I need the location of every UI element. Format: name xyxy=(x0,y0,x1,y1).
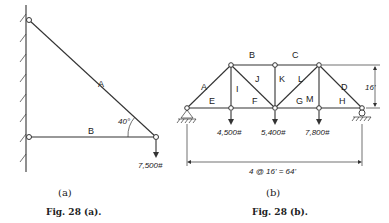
label-j: J xyxy=(255,74,260,84)
arrow-down-icon xyxy=(228,119,234,125)
svg-text:7,800#: 7,800# xyxy=(305,128,330,137)
load-label: 7,500# xyxy=(138,161,163,170)
load-2: 5,400# xyxy=(261,111,286,137)
load-arrowhead-icon xyxy=(153,152,159,158)
arrow-up-icon xyxy=(373,66,377,70)
label-l: L xyxy=(298,74,303,84)
label-g: G xyxy=(296,96,303,106)
figure-a: 40° A B 7,500# (a) Fig. 28 (a). xyxy=(20,5,163,217)
load-3: 7,800# xyxy=(305,111,330,137)
member-a xyxy=(29,20,156,137)
truss-diagram: 40° A B 7,500# (a) Fig. 28 (a). xyxy=(0,0,389,223)
pin-load xyxy=(154,135,159,140)
label-h: H xyxy=(339,96,346,106)
caption-b: Fig. 28 (b). xyxy=(252,207,308,217)
pin-bottom xyxy=(27,135,32,140)
arrow-down-icon xyxy=(272,119,278,125)
arrow-left-icon xyxy=(187,160,191,164)
subcaption-b: (b) xyxy=(266,187,280,198)
height-label: 16' xyxy=(365,83,376,92)
pin-top xyxy=(27,18,32,23)
svg-text:5,400#: 5,400# xyxy=(261,128,286,137)
label-c: C xyxy=(292,50,299,60)
right-support-roller-icon xyxy=(359,110,365,116)
left-support-icon xyxy=(181,110,193,118)
label-f: F xyxy=(252,96,258,106)
label-i: I xyxy=(236,84,239,94)
subcaption-a: (a) xyxy=(58,187,72,198)
span-label: 4 @ 16' = 64' xyxy=(249,167,296,176)
label-e: E xyxy=(209,96,215,106)
label-a: A xyxy=(201,82,207,92)
left-support-hatch xyxy=(177,119,196,123)
label-b: B xyxy=(249,50,255,60)
angle-label: 40° xyxy=(118,117,131,126)
arrow-down-icon xyxy=(316,119,322,125)
member-b-label: B xyxy=(88,126,94,136)
caption-a: Fig. 28 (a). xyxy=(46,207,102,217)
arrow-right-icon xyxy=(358,160,362,164)
load-1: 4,500# xyxy=(217,111,242,137)
arrow-down-icon xyxy=(373,103,377,107)
svg-text:4,500#: 4,500# xyxy=(217,128,242,137)
right-support-hatch xyxy=(352,117,371,121)
label-d: D xyxy=(341,82,348,92)
figure-b: B C A D I J K L M E F G H 4,500# 5,400# … xyxy=(177,50,380,217)
member-a-label: A xyxy=(98,79,104,89)
label-m: M xyxy=(306,94,314,104)
label-k: K xyxy=(279,74,285,84)
wall-hatching xyxy=(20,14,26,162)
